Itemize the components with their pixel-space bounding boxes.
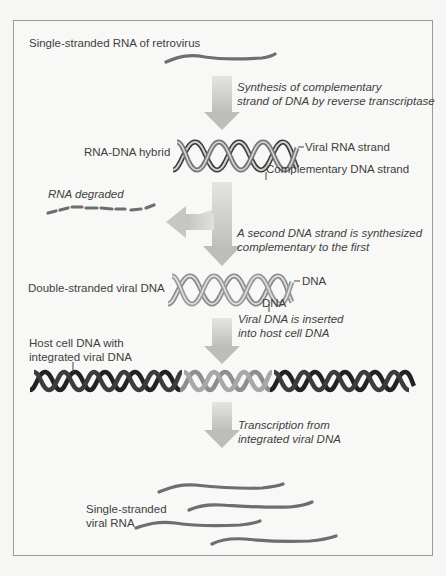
step1-process-line1: Synthesis of complementary xyxy=(237,80,381,94)
arrow-down-icon xyxy=(204,402,240,448)
double-stranded-viral-dna-label: Double-stranded viral DNA xyxy=(28,281,165,295)
degraded-rna-fragments-icon xyxy=(48,205,154,213)
integrated-viral-dna-helix-icon xyxy=(180,372,272,390)
host-cell-dna-label-line2: integrated viral DNA xyxy=(29,350,132,364)
host-dna-left-helix-icon xyxy=(30,372,182,390)
step2-process-line2: complementary to the first xyxy=(237,240,369,254)
viral-rna-strand-label: Viral RNA strand xyxy=(305,140,390,154)
dna-upper-label: DNA xyxy=(302,274,326,288)
single-stranded-viral-rna-label-line1: Single-stranded xyxy=(86,502,167,516)
host-cell-dna-label-line1: Host cell DNA with xyxy=(29,336,124,350)
split-arrow-icon xyxy=(166,182,241,266)
arrow-down-icon xyxy=(204,76,240,130)
step3-process-line2: into host cell DNA xyxy=(238,326,329,340)
step1-process-line2: strand of DNA by reverse transcriptase xyxy=(237,94,435,108)
dna-lower-label: DNA xyxy=(262,296,286,310)
step4-process-line2: integrated viral DNA xyxy=(238,432,341,446)
ssrna-label: Single-stranded RNA of retrovirus xyxy=(29,36,200,50)
rna-degraded-label: RNA degraded xyxy=(48,187,124,201)
single-stranded-viral-rna-label-line2: viral RNA xyxy=(86,516,135,530)
ssrna-strand-icon xyxy=(166,54,275,62)
arrow-down-icon xyxy=(204,318,240,364)
step3-process-line1: Viral DNA is inserted xyxy=(238,312,343,326)
host-dna-right-helix-icon xyxy=(270,372,414,390)
step2-process-line1: A second DNA strand is synthesized xyxy=(237,226,422,240)
rna-dna-hybrid-label: RNA-DNA hybrid xyxy=(84,145,170,159)
step4-process-line1: Transcription from xyxy=(238,418,330,432)
complementary-dna-strand-label: Complementary DNA strand xyxy=(266,162,409,176)
